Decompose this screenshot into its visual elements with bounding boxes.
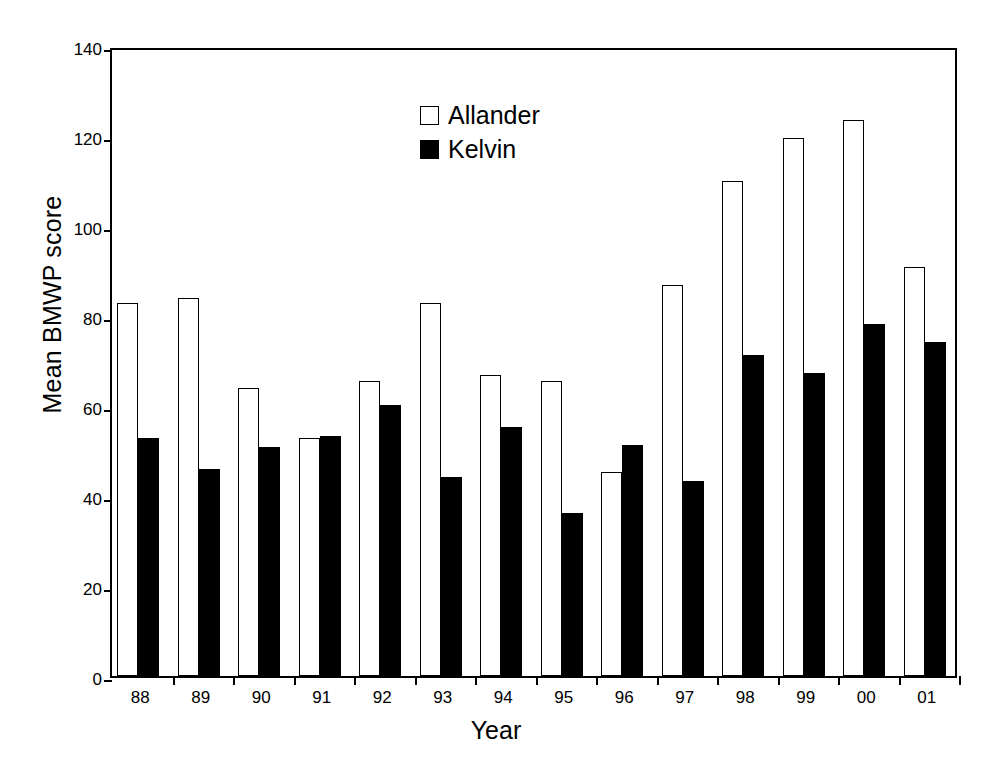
x-tick-mark — [899, 676, 901, 685]
bar-kelvin-93 — [441, 477, 462, 676]
bar-kelvin-92 — [380, 405, 401, 676]
y-tick-mark — [104, 680, 112, 682]
legend-item-allander: Allander — [420, 98, 540, 132]
bar-group — [722, 50, 764, 676]
x-tick-mark — [233, 676, 235, 685]
x-tick-label-96: 96 — [594, 688, 654, 708]
x-tick-label-90: 90 — [231, 688, 291, 708]
y-tick-label: 140 — [68, 45, 102, 55]
bar-allander-00 — [843, 120, 864, 676]
bar-kelvin-95 — [562, 513, 583, 676]
bar-allander-90 — [238, 388, 259, 676]
y-tick-mark — [104, 50, 112, 52]
x-tick-label-98: 98 — [715, 688, 775, 708]
bar-group — [601, 50, 643, 676]
bar-kelvin-98 — [743, 355, 764, 676]
y-axis-title: Mean BMWP score — [38, 175, 67, 435]
bar-kelvin-99 — [804, 373, 825, 676]
x-tick-mark — [475, 676, 477, 685]
x-tick-label-00: 00 — [836, 688, 896, 708]
legend-label-kelvin: Kelvin — [448, 132, 516, 166]
filled-square-icon — [420, 140, 439, 159]
bar-group — [117, 50, 159, 676]
x-tick-mark — [657, 676, 659, 685]
x-tick-mark — [173, 676, 175, 685]
x-tick-mark — [959, 676, 961, 685]
bar-allander-89 — [178, 298, 199, 676]
x-tick-label-92: 92 — [352, 688, 412, 708]
bar-allander-98 — [722, 181, 743, 676]
bar-group — [299, 50, 341, 676]
bar-group — [238, 50, 280, 676]
bar-allander-88 — [117, 303, 138, 677]
bar-kelvin-96 — [622, 445, 643, 676]
y-tick-mark — [104, 140, 112, 142]
y-tick-label: 20 — [68, 585, 102, 595]
x-tick-mark — [415, 676, 417, 685]
x-tick-label-94: 94 — [473, 688, 533, 708]
bar-kelvin-01 — [925, 342, 946, 676]
bar-kelvin-00 — [864, 324, 885, 676]
bar-kelvin-97 — [683, 481, 704, 676]
bar-allander-96 — [601, 472, 622, 676]
bar-group — [178, 50, 220, 676]
y-tick-mark — [104, 590, 112, 592]
x-tick-mark — [536, 676, 538, 685]
x-tick-label-89: 89 — [171, 688, 231, 708]
y-tick-label: 120 — [68, 135, 102, 145]
bar-group — [662, 50, 704, 676]
x-tick-mark — [596, 676, 598, 685]
legend: Allander Kelvin — [420, 98, 540, 166]
y-tick-mark — [104, 230, 112, 232]
bar-allander-92 — [359, 381, 380, 676]
legend-label-allander: Allander — [448, 98, 540, 132]
x-tick-mark — [838, 676, 840, 685]
bar-chart-figure: Mean BMWP score 020406080100120140 88899… — [0, 0, 992, 772]
x-tick-label-93: 93 — [413, 688, 473, 708]
x-tick-mark — [717, 676, 719, 685]
bar-allander-99 — [783, 138, 804, 676]
x-tick-label-99: 99 — [776, 688, 836, 708]
y-tick-label: 100 — [68, 225, 102, 235]
bar-kelvin-90 — [259, 447, 280, 677]
bar-allander-94 — [480, 375, 501, 677]
y-tick-mark — [104, 410, 112, 412]
x-tick-mark — [294, 676, 296, 685]
x-tick-label-88: 88 — [110, 688, 170, 708]
bar-group — [783, 50, 825, 676]
bar-group — [843, 50, 885, 676]
y-tick-mark — [104, 500, 112, 502]
bar-allander-01 — [904, 267, 925, 677]
bar-group — [359, 50, 401, 676]
y-tick-mark — [104, 320, 112, 322]
bar-allander-93 — [420, 303, 441, 677]
bar-allander-97 — [662, 285, 683, 677]
x-tick-mark — [778, 676, 780, 685]
legend-item-kelvin: Kelvin — [420, 132, 540, 166]
open-square-icon — [420, 106, 439, 125]
bar-allander-95 — [541, 381, 562, 676]
x-tick-label-97: 97 — [655, 688, 715, 708]
cropped-caption — [0, 752, 992, 772]
y-tick-label: 0 — [68, 675, 102, 685]
x-tick-label-01: 01 — [897, 688, 957, 708]
bar-kelvin-91 — [320, 436, 341, 676]
y-tick-label: 80 — [68, 315, 102, 325]
x-tick-mark — [354, 676, 356, 685]
bar-group — [541, 50, 583, 676]
y-tick-label: 40 — [68, 495, 102, 505]
x-axis-title: Year — [0, 716, 992, 745]
x-tick-label-91: 91 — [292, 688, 352, 708]
bar-kelvin-89 — [199, 469, 220, 676]
bar-kelvin-94 — [501, 427, 522, 676]
x-tick-label-95: 95 — [534, 688, 594, 708]
bar-allander-91 — [299, 438, 320, 677]
y-tick-label: 60 — [68, 405, 102, 415]
bar-group — [904, 50, 946, 676]
bar-kelvin-88 — [138, 438, 159, 677]
